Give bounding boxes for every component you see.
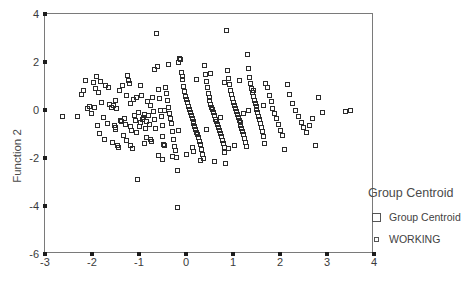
- data-point: [176, 128, 181, 133]
- data-point: [121, 133, 126, 138]
- data-point: [153, 126, 158, 131]
- data-point: [163, 85, 168, 90]
- data-point: [265, 85, 270, 90]
- data-point: [208, 71, 213, 76]
- data-point: [124, 93, 129, 98]
- data-point: [92, 105, 97, 110]
- data-point: [178, 57, 183, 62]
- data-point: [293, 108, 298, 113]
- y-tick-label: 4: [33, 8, 39, 20]
- data-point: [232, 143, 237, 148]
- data-point: [223, 161, 228, 166]
- data-point: [154, 31, 159, 36]
- data-point: [170, 154, 175, 159]
- data-point: [75, 114, 80, 119]
- data-point: [226, 146, 231, 151]
- data-point: [113, 98, 118, 103]
- data-point: [304, 130, 309, 135]
- data-point: [296, 114, 301, 119]
- data-point: [245, 52, 250, 57]
- x-tick-label: -3: [40, 256, 50, 268]
- data-point: [237, 78, 242, 83]
- data-point: [262, 141, 267, 146]
- data-point: [247, 75, 252, 80]
- data-point: [261, 103, 266, 108]
- data-point: [139, 93, 144, 98]
- data-point: [285, 82, 290, 87]
- data-point: [160, 123, 165, 128]
- data-point: [127, 81, 132, 86]
- data-point: [134, 95, 139, 100]
- data-point: [224, 28, 229, 33]
- square-open-small-icon: [368, 237, 384, 242]
- data-point: [313, 143, 318, 148]
- data-point: [173, 148, 178, 153]
- y-tick-mark: [43, 108, 47, 112]
- legend: Group Centroid Group Centroid WORKING: [368, 186, 464, 255]
- data-point: [202, 63, 207, 68]
- data-point: [165, 98, 170, 103]
- data-point: [150, 95, 155, 100]
- y-tick-mark: [43, 204, 47, 208]
- x-tick-label: -1: [134, 256, 144, 268]
- data-point: [160, 157, 165, 162]
- data-point: [162, 143, 167, 148]
- data-point: [287, 92, 292, 97]
- data-point: [124, 138, 129, 143]
- data-point: [113, 127, 118, 132]
- data-point: [274, 116, 279, 121]
- data-point: [117, 88, 122, 93]
- data-point: [181, 84, 186, 89]
- data-point: [97, 131, 102, 136]
- data-point: [280, 133, 285, 138]
- data-point: [290, 101, 295, 106]
- data-point: [241, 111, 246, 116]
- legend-item-group-centroid[interactable]: Group Centroid: [368, 211, 464, 223]
- y-axis-title: Function 2: [11, 101, 23, 211]
- y-tick-mark: [43, 12, 47, 16]
- data-point: [89, 111, 94, 116]
- data-point: [60, 114, 65, 119]
- data-point: [147, 122, 152, 127]
- data-point: [99, 100, 104, 105]
- data-point: [204, 79, 209, 84]
- data-point: [162, 108, 167, 113]
- data-point: [270, 106, 275, 111]
- data-point: [122, 116, 127, 121]
- data-point: [203, 72, 208, 77]
- data-point: [222, 80, 227, 85]
- y-tick-label: -2: [29, 152, 39, 164]
- y-tick-label: -6: [29, 248, 39, 260]
- data-point: [102, 137, 107, 142]
- data-point: [149, 139, 154, 144]
- data-point: [175, 205, 180, 210]
- data-point: [105, 121, 110, 126]
- data-point: [227, 82, 232, 87]
- square-open-large-icon: [368, 213, 384, 222]
- data-point: [171, 137, 176, 142]
- legend-title: Group Centroid: [368, 186, 464, 200]
- data-point: [170, 129, 175, 134]
- data-point: [244, 144, 249, 149]
- data-points-layer: [45, 14, 372, 252]
- plot-area: -6-4-2024 -3-2-101234: [44, 13, 373, 253]
- data-point: [246, 66, 251, 71]
- data-point: [110, 140, 115, 145]
- data-point: [148, 103, 153, 108]
- data-point: [166, 62, 171, 67]
- x-tick-label: 4: [371, 256, 377, 268]
- data-point: [260, 129, 265, 134]
- data-point: [269, 99, 274, 104]
- data-point: [116, 145, 121, 150]
- data-point: [175, 168, 180, 173]
- legend-item-working[interactable]: WORKING: [368, 233, 464, 245]
- data-point: [159, 114, 164, 119]
- data-point: [101, 115, 106, 120]
- data-point: [348, 108, 353, 113]
- data-point: [142, 141, 147, 146]
- data-point: [320, 110, 325, 115]
- data-point: [169, 121, 174, 126]
- data-point: [205, 85, 210, 90]
- data-point: [152, 67, 157, 72]
- data-point: [282, 147, 287, 152]
